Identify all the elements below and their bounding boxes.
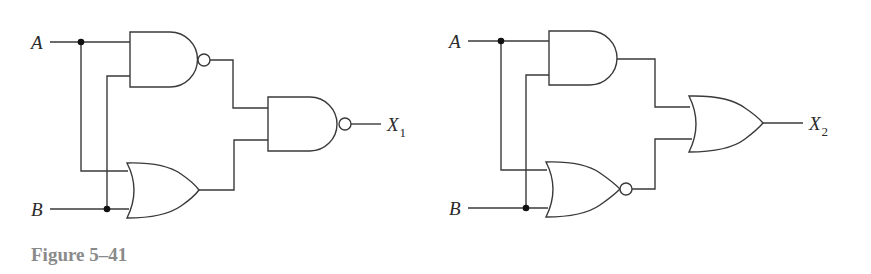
input-a-label: A — [447, 31, 461, 52]
wire-b-branch — [526, 75, 549, 208]
wire-and-out — [617, 59, 690, 107]
nand-gate-2 — [268, 97, 337, 151]
input-a-label: A — [29, 32, 43, 53]
figure-caption: Figure 5–41 — [31, 244, 127, 266]
output-x2-label: X2 — [808, 113, 828, 139]
nor-gate — [546, 162, 620, 217]
junction-dot-a — [498, 38, 505, 45]
wire-or1-out — [199, 140, 268, 190]
input-b-label: B — [449, 198, 461, 219]
wire-nand1-out — [210, 60, 268, 108]
inversion-bubble — [198, 54, 210, 66]
nand-gate-1 — [130, 32, 197, 87]
output-x1-label: X1 — [386, 114, 406, 140]
junction-dot-b — [523, 205, 530, 212]
wire-a-branch — [81, 42, 128, 171]
and-gate — [549, 31, 617, 85]
wire-nor-out — [632, 139, 692, 189]
or-gate-2 — [689, 96, 763, 152]
logic-diagram: A B X1 A B — [0, 0, 871, 274]
wire-b-branch — [107, 76, 130, 209]
circuit-1: A B X1 — [29, 32, 406, 220]
circuit-2: A B X2 — [447, 31, 828, 219]
junction-dot-b — [104, 206, 111, 213]
junction-dot-a — [78, 39, 85, 46]
or-gate-1 — [127, 163, 199, 218]
wire-a-branch — [501, 41, 547, 170]
inversion-bubble — [339, 118, 351, 130]
input-b-label: B — [31, 199, 43, 220]
inversion-bubble — [620, 183, 632, 195]
